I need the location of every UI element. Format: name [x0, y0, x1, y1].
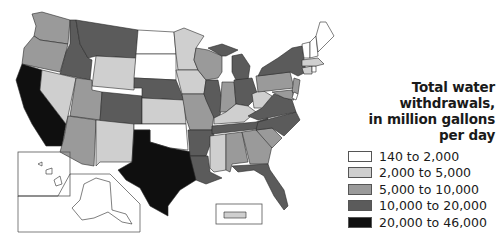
state-ak: [72, 178, 132, 224]
state-sd: [134, 54, 176, 80]
state-mt: [76, 20, 138, 58]
swatch-2000-5000: [348, 167, 372, 178]
state-fl: [232, 164, 288, 210]
state-ms: [210, 134, 226, 172]
state-ma: [302, 58, 324, 66]
state-hi-3: [38, 162, 42, 166]
state-mi: [232, 54, 250, 80]
legend-title: Total water withdrawals, in million gall…: [340, 79, 499, 143]
state-me: [316, 22, 334, 52]
legend-item: 5,000 to 10,000: [348, 181, 499, 198]
state-co: [100, 92, 142, 124]
state-ri: [312, 66, 316, 72]
state-hi-2: [46, 168, 52, 174]
state-wy: [92, 56, 136, 90]
swatch-10000-20000: [348, 200, 372, 211]
state-pr: [224, 212, 246, 218]
hawaii-inset: [18, 152, 70, 196]
state-nj: [292, 78, 300, 94]
state-ks: [142, 98, 186, 124]
legend-item: 20,000 to 46,000: [348, 214, 499, 231]
legend-item: 140 to 2,000: [348, 148, 499, 165]
state-hi: [54, 176, 62, 186]
state-nm: [96, 120, 134, 166]
swatch-140-2000: [348, 151, 372, 162]
state-ny: [258, 46, 306, 76]
legend-item: 10,000 to 20,000: [348, 198, 499, 215]
state-nd: [136, 30, 176, 54]
legend: Total water withdrawals, in million gall…: [340, 79, 499, 231]
swatch-20000-46000: [348, 217, 372, 228]
legend-item: 2,000 to 5,000: [348, 165, 499, 182]
swatch-5000-10000: [348, 184, 372, 195]
